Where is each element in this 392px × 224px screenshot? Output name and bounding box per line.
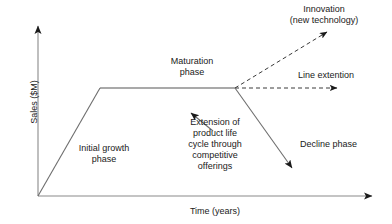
label-extension-of-product-life-cycle: Extension of product life cycle through …	[163, 117, 267, 172]
label-maturation-phase: Maturation phase	[146, 56, 238, 78]
product-life-cycle-diagram: Sales ($M) Time (years) Initial growth p…	[0, 0, 392, 224]
label-initial-growth-phase: Initial growth phase	[58, 143, 150, 165]
label-line-extention: Line extention	[298, 70, 390, 81]
diagram-canvas	[0, 0, 392, 224]
x-axis-label: Time (years)	[160, 206, 270, 216]
label-decline-phase: Decline phase	[300, 139, 390, 150]
curve-initial-growth	[38, 88, 100, 196]
label-innovation-new-technology: Innovation (new technology)	[256, 4, 392, 26]
y-axis-label: Sales ($M)	[29, 67, 39, 137]
